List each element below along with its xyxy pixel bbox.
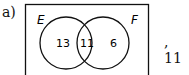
intersection-count: 11 [80,37,94,50]
e-only-count: 13 [56,37,70,50]
set-f-label: F [131,13,139,27]
venn-diagram: E F 13 11 6 [0,0,189,75]
set-e-label: E [37,13,45,27]
answer-text: , 11 [164,34,189,66]
f-only-count: 6 [110,37,117,50]
